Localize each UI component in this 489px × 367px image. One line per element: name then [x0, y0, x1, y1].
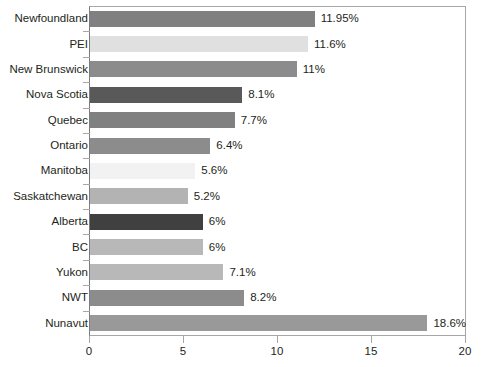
- bar-container-alberta: 6%: [90, 209, 466, 234]
- bar-yukon: [90, 264, 223, 280]
- bar-row-nwt: NWT8.2%: [0, 285, 489, 310]
- bar-value-label-nwt: 8.2%: [250, 291, 276, 304]
- bar-nunavut: [90, 315, 427, 331]
- category-label-quebec: Quebec: [0, 114, 88, 127]
- bar-row-nunavut: Nunavut18.6%: [0, 311, 489, 336]
- bar-container-new-brunswick: 11%: [90, 57, 466, 82]
- y-axis-tick-6: [83, 184, 90, 185]
- bar-row-nova-scotia: Nova Scotia8.1%: [0, 82, 489, 107]
- bar-value-label-saskatchewan: 5.2%: [194, 190, 220, 203]
- x-axis-tick-label-15: 15: [365, 345, 378, 358]
- y-axis-tick-4: [83, 133, 90, 134]
- y-axis-tick-8: [83, 234, 90, 235]
- y-axis-tick-2: [83, 82, 90, 83]
- bar-value-label-nunavut: 18.6%: [433, 317, 466, 330]
- bar-alberta: [90, 214, 203, 230]
- y-axis-tick-0: [83, 31, 90, 32]
- bar-row-pei: PEI11.6%: [0, 31, 489, 56]
- y-axis-tick-5: [83, 158, 90, 159]
- category-label-ontario: Ontario: [0, 139, 88, 152]
- bar-container-saskatchewan: 5.2%: [90, 184, 466, 209]
- bar-value-label-quebec: 7.7%: [241, 114, 267, 127]
- bar-value-label-pei: 11.6%: [314, 38, 346, 51]
- category-label-alberta: Alberta: [0, 215, 88, 228]
- x-axis-tick-label-10: 10: [271, 345, 284, 358]
- bar-container-quebec: 7.7%: [90, 108, 466, 133]
- bar-row-yukon: Yukon7.1%: [0, 260, 489, 285]
- y-axis-tick-10: [83, 285, 90, 286]
- bar-container-ontario: 6.4%: [90, 133, 466, 158]
- category-label-new-brunswick: New Brunswick: [0, 63, 88, 76]
- x-axis-tick-5: [183, 336, 184, 343]
- category-label-nunavut: Nunavut: [0, 317, 88, 330]
- y-axis-tick-1: [83, 57, 90, 58]
- x-axis-tick-label-20: 20: [459, 345, 472, 358]
- bar-row-new-brunswick: New Brunswick11%: [0, 57, 489, 82]
- bar-bc: [90, 239, 203, 255]
- bar-container-newfoundland: 11.95%: [90, 6, 466, 31]
- bar-row-ontario: Ontario6.4%: [0, 133, 489, 158]
- bar-row-manitoba: Manitoba5.6%: [0, 158, 489, 183]
- bar-chart: Newfoundland11.95%PEI11.6%New Brunswick1…: [0, 0, 489, 367]
- bar-value-label-alberta: 6%: [209, 215, 226, 228]
- x-axis: 05101520: [89, 336, 466, 366]
- bar-new-brunswick: [90, 61, 297, 77]
- bar-quebec: [90, 112, 235, 128]
- y-axis-tick-9: [83, 260, 90, 261]
- x-axis-tick-label-5: 5: [180, 345, 186, 358]
- bar-container-nwt: 8.2%: [90, 285, 466, 310]
- y-axis-tick-3: [83, 108, 90, 109]
- bar-nova-scotia: [90, 87, 242, 103]
- bar-newfoundland: [90, 11, 315, 27]
- bar-container-nova-scotia: 8.1%: [90, 82, 466, 107]
- bar-value-label-ontario: 6.4%: [216, 139, 242, 152]
- bar-row-newfoundland: Newfoundland11.95%: [0, 6, 489, 31]
- bar-row-bc: BC6%: [0, 234, 489, 259]
- bar-ontario: [90, 138, 210, 154]
- category-label-pei: PEI: [0, 38, 88, 51]
- bar-saskatchewan: [90, 188, 188, 204]
- category-label-newfoundland: Newfoundland: [0, 12, 88, 25]
- bar-container-manitoba: 5.6%: [90, 158, 466, 183]
- bar-manitoba: [90, 163, 195, 179]
- bar-nwt: [90, 290, 244, 306]
- x-axis-tick-15: [371, 336, 372, 343]
- bar-container-pei: 11.6%: [90, 31, 466, 56]
- bar-value-label-nova-scotia: 8.1%: [248, 88, 274, 101]
- bar-rows: Newfoundland11.95%PEI11.6%New Brunswick1…: [0, 6, 489, 336]
- category-label-nova-scotia: Nova Scotia: [0, 88, 88, 101]
- category-label-manitoba: Manitoba: [0, 164, 88, 177]
- bar-container-bc: 6%: [90, 234, 466, 259]
- bar-row-saskatchewan: Saskatchewan5.2%: [0, 184, 489, 209]
- category-label-yukon: Yukon: [0, 266, 88, 279]
- category-label-nwt: NWT: [0, 291, 88, 304]
- bar-pei: [90, 36, 308, 52]
- bar-row-alberta: Alberta6%: [0, 209, 489, 234]
- y-axis-tick-7: [83, 209, 90, 210]
- bar-value-label-manitoba: 5.6%: [201, 164, 227, 177]
- bar-value-label-new-brunswick: 11%: [303, 63, 325, 76]
- category-label-bc: BC: [0, 241, 88, 254]
- bar-container-nunavut: 18.6%: [90, 311, 466, 336]
- x-axis-tick-0: [89, 336, 90, 343]
- bar-container-yukon: 7.1%: [90, 260, 466, 285]
- x-axis-tick-10: [277, 336, 278, 343]
- y-axis-tick-11: [83, 311, 90, 312]
- x-axis-tick-label-0: 0: [86, 345, 92, 358]
- bar-row-quebec: Quebec7.7%: [0, 108, 489, 133]
- bar-value-label-newfoundland: 11.95%: [321, 12, 359, 25]
- x-axis-tick-20: [465, 336, 466, 343]
- category-label-saskatchewan: Saskatchewan: [0, 190, 88, 203]
- bar-value-label-yukon: 7.1%: [229, 266, 255, 279]
- bar-value-label-bc: 6%: [209, 241, 226, 254]
